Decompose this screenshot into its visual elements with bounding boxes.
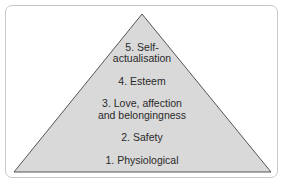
level-3-label-line1: 3. Love, affection bbox=[0, 98, 284, 109]
level-5-label-line2: actualisation bbox=[0, 53, 284, 64]
level-2-label: 2. Safety bbox=[0, 132, 284, 143]
level-3-label-line2: and belongingness bbox=[0, 110, 284, 121]
level-4-label: 4. Esteem bbox=[0, 76, 284, 87]
level-1-label: 1. Physiological bbox=[0, 155, 284, 166]
